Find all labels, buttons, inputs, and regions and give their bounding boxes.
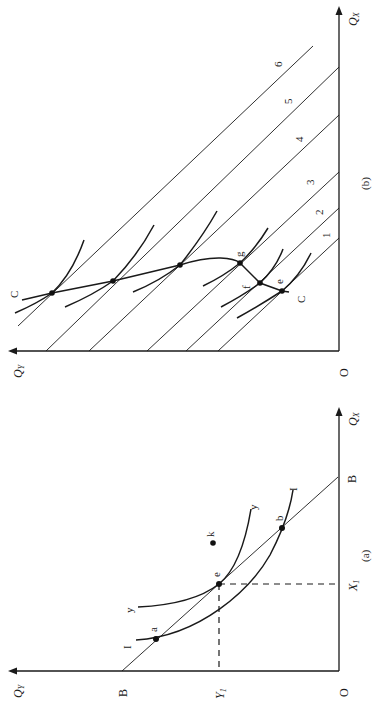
label-k: k xyxy=(204,531,216,537)
panel-b-qy-label: QY xyxy=(11,363,26,378)
panel-b-qx-arrow-icon xyxy=(336,6,343,15)
point-f xyxy=(257,280,263,286)
label-budget-b-x: B xyxy=(345,475,359,483)
panel-b-origin-label: O xyxy=(337,368,351,377)
indiff-curve-5 xyxy=(65,225,154,307)
label-f: f xyxy=(240,285,252,289)
label-y-right: y xyxy=(247,504,259,510)
point-e-a xyxy=(216,581,222,587)
label-y1: Y1 xyxy=(213,688,228,699)
label-e-a: e xyxy=(210,572,222,577)
label-i-right: I xyxy=(287,487,299,491)
point-6 xyxy=(49,290,55,296)
indiff-curve-i xyxy=(136,490,293,640)
budget-line-4 xyxy=(89,115,339,351)
budget-line-bb xyxy=(122,477,338,671)
label-i-left: I xyxy=(121,645,133,649)
panel-a: a e b k I I y y B B O Y1 X1 QX QY (a) xyxy=(8,407,372,699)
point-g xyxy=(237,260,243,266)
label-budget-b-y: B xyxy=(116,689,130,697)
panel-b-qx-label: QX xyxy=(346,11,361,26)
budget-label-2: 2 xyxy=(313,210,325,216)
panel-a-qy-label: QY xyxy=(11,683,26,698)
point-5 xyxy=(110,278,116,284)
label-x1: X1 xyxy=(346,580,361,592)
budget-label-4: 4 xyxy=(293,136,305,142)
label-g: g xyxy=(233,251,245,257)
label-c-bottom: C xyxy=(295,296,307,303)
panel-a-qx-arrow-icon xyxy=(336,407,343,416)
budget-line-3 xyxy=(147,172,339,351)
panel-b: 1 2 3 4 5 6 e f g C C xyxy=(8,6,372,378)
point-a xyxy=(153,636,159,642)
budget-line-2 xyxy=(186,208,339,351)
point-k xyxy=(210,540,216,546)
budget-label-6: 6 xyxy=(272,61,284,67)
budget-line-6 xyxy=(18,46,313,326)
panel-a-qy-arrow-icon xyxy=(8,668,17,675)
budget-label-5: 5 xyxy=(282,98,294,104)
panel-a-qx-label: QX xyxy=(346,411,361,426)
label-e-b: e xyxy=(273,279,285,284)
panel-a-origin-label: O xyxy=(337,688,351,697)
indiff-curve-2 xyxy=(221,249,283,307)
indiff-curve-y xyxy=(138,509,251,607)
budget-label-3: 3 xyxy=(304,179,316,185)
consumer-choice-figure: 1 2 3 4 5 6 e f g C C xyxy=(0,0,385,701)
indiff-curve-4 xyxy=(133,211,217,292)
panel-b-caption: (b) xyxy=(359,177,372,190)
label-y-left: y xyxy=(123,607,135,613)
consumption-path-c xyxy=(22,258,289,300)
indiff-curve-6 xyxy=(15,240,84,313)
point-b xyxy=(279,525,285,531)
panel-b-qy-arrow-icon xyxy=(8,348,17,355)
label-b: b xyxy=(273,515,285,521)
label-c-top: C xyxy=(8,291,20,298)
point-e-b xyxy=(279,288,285,294)
label-a: a xyxy=(147,627,159,632)
point-4 xyxy=(177,262,183,268)
budget-label-1: 1 xyxy=(320,233,332,239)
panel-a-caption: (a) xyxy=(359,549,372,562)
